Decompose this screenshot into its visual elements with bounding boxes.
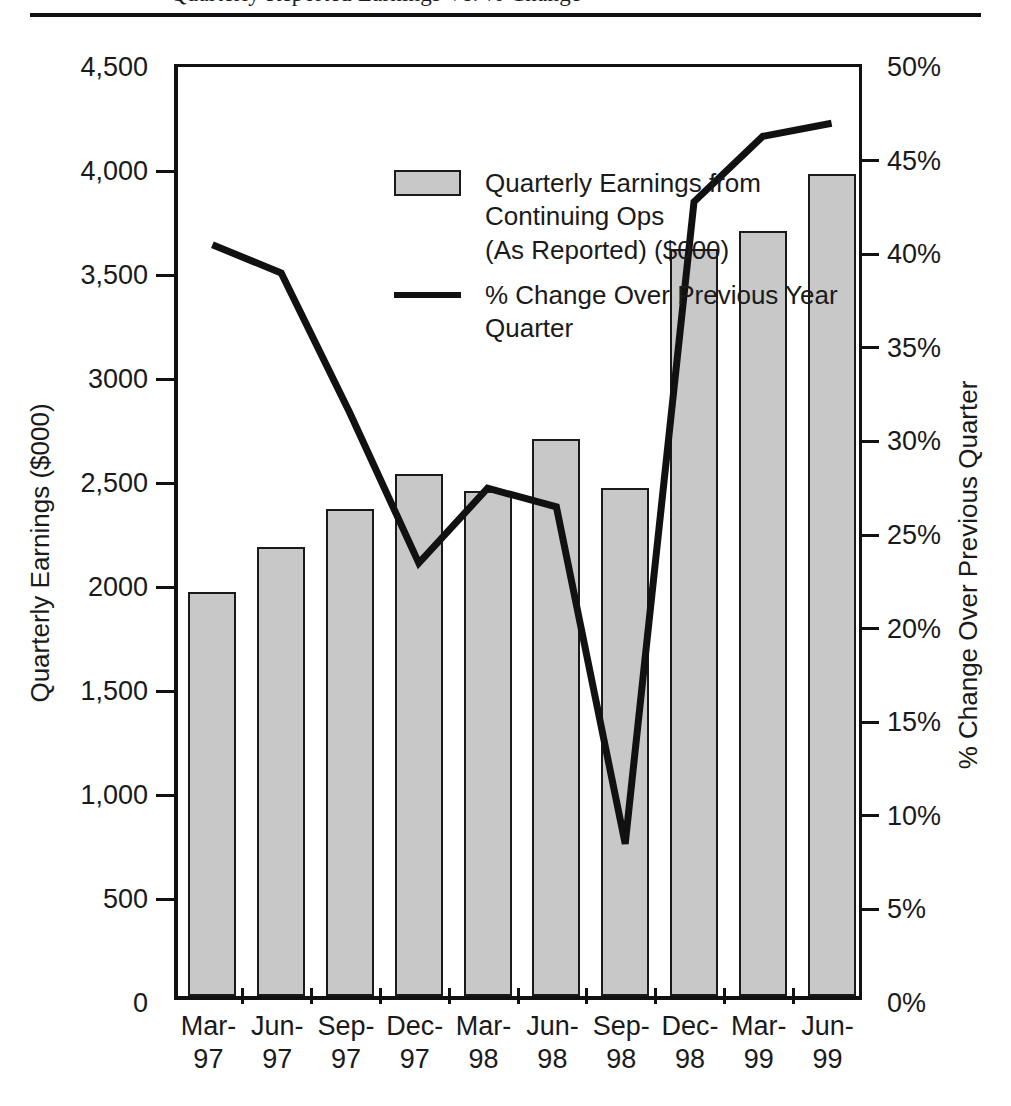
- x-tick-label: Mar-97: [181, 1010, 237, 1077]
- y-tick-left: [156, 170, 178, 173]
- legend-label-bars: Quarterly Earnings from Continuing Ops (…: [485, 167, 859, 267]
- x-tick-label: Jun-98: [526, 1010, 579, 1077]
- plot-area: 4,5004,0003,50030002,50020001,5001,00050…: [174, 64, 862, 1000]
- y-tick-left: [156, 586, 178, 589]
- y-tick-label-left: 2000: [88, 574, 148, 601]
- y-tick-label-right: 10%: [887, 802, 941, 829]
- y-tick-label-left: 2,500: [80, 470, 148, 497]
- y-tick-label-left: 3,500: [80, 262, 148, 289]
- x-tick-label: Dec-97: [386, 1010, 443, 1077]
- chart-figure: Quarterly Earnings ($000) % Change Over …: [0, 0, 1011, 1106]
- y-tick-label-left: 500: [103, 886, 148, 913]
- x-tick-label: Mar-98: [456, 1010, 512, 1077]
- y-tick-label-left: 4,000: [80, 158, 148, 185]
- y-tick-label-left: 0: [133, 990, 148, 1017]
- y-tick-left: [156, 690, 178, 693]
- x-tick-label: Dec-98: [661, 1010, 718, 1077]
- y-tick-label-right: 5%: [887, 896, 926, 923]
- legend-label-line: % Change Over Previous Year Quarter: [485, 279, 859, 346]
- y-axis-title-left: Quarterly Earnings ($000): [25, 403, 56, 702]
- x-tick: [792, 988, 795, 1004]
- y-axis-title-right: % Change Over Previous Quarter: [953, 381, 984, 770]
- y-tick-label-left: 3000: [88, 366, 148, 393]
- x-tick: [585, 988, 588, 1004]
- legend-label-bars-line2: (As Reported) ($000): [485, 235, 729, 265]
- y-tick-label-left: 1,500: [80, 678, 148, 705]
- x-tick-label: Jun-97: [251, 1010, 304, 1077]
- x-tick: [517, 988, 520, 1004]
- x-tick: [654, 988, 657, 1004]
- x-tick-label: Sep-98: [593, 1010, 650, 1077]
- y-tick-label-left: 1,000: [80, 782, 148, 809]
- y-tick-label-right: 20%: [887, 615, 941, 642]
- y-tick-label-left: 4,500: [80, 54, 148, 81]
- x-axis: Mar-97Jun-97Sep-97Dec-97Mar-98Jun-98Sep-…: [174, 1004, 862, 1100]
- x-tick-label: Sep-97: [317, 1010, 374, 1077]
- y-tick-label-right: 35%: [887, 334, 941, 361]
- y-tick-left: [156, 482, 178, 485]
- x-tick: [723, 988, 726, 1004]
- x-tick: [310, 988, 313, 1004]
- x-tick-label: Jun-99: [801, 1010, 854, 1077]
- legend-bar-swatch-icon: [394, 170, 461, 196]
- x-tick-label: Mar-99: [731, 1010, 787, 1077]
- y-tick-left: [156, 274, 178, 277]
- legend-item-bars: Quarterly Earnings from Continuing Ops (…: [394, 167, 859, 267]
- y-tick-left: [156, 794, 178, 797]
- x-tick: [379, 988, 382, 1004]
- y-tick-label-right: 40%: [887, 241, 941, 268]
- x-tick: [241, 988, 244, 1004]
- y-tick-label-right: 45%: [887, 147, 941, 174]
- y-tick-left: [156, 378, 178, 381]
- y-tick-left: [156, 898, 178, 901]
- y-tick-label-right: 50%: [887, 54, 941, 81]
- legend-line-swatch-icon: [394, 292, 461, 298]
- y-tick-label-right: 25%: [887, 522, 941, 549]
- y-tick-label-right: 30%: [887, 428, 941, 455]
- legend-item-line: % Change Over Previous Year Quarter: [394, 279, 859, 346]
- y-tick-label-right: 0%: [887, 990, 926, 1017]
- y-tick-label-right: 15%: [887, 709, 941, 736]
- chart-legend: Quarterly Earnings from Continuing Ops (…: [394, 167, 859, 357]
- x-tick: [448, 988, 451, 1004]
- legend-label-bars-line1: Quarterly Earnings from Continuing Ops: [485, 168, 761, 231]
